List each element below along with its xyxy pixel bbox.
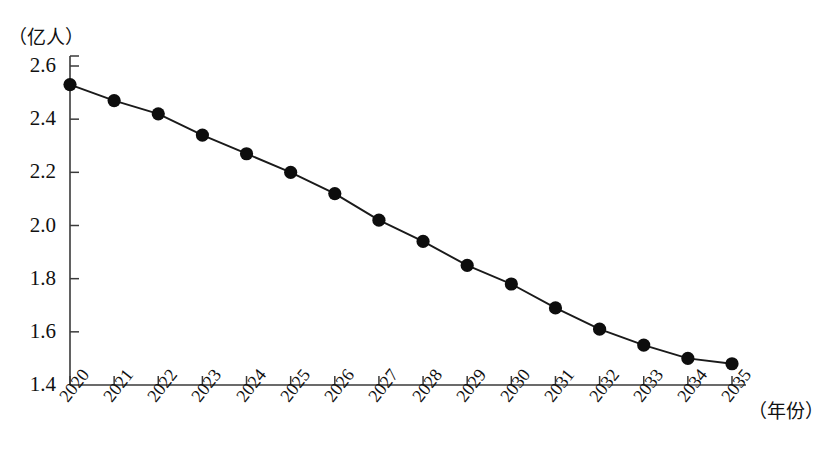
data-point [240, 147, 253, 160]
y-tick-label: 2.0 [10, 215, 56, 236]
data-point [372, 214, 385, 227]
data-point [284, 166, 297, 179]
y-tick-label: 2.2 [10, 161, 56, 182]
data-point [637, 339, 650, 352]
y-tick-label: 1.6 [10, 321, 56, 342]
data-point [461, 259, 474, 272]
data-point [505, 277, 518, 290]
data-point [63, 78, 76, 91]
data-point [328, 187, 341, 200]
data-point [416, 235, 429, 248]
y-tick-label: 1.8 [10, 268, 56, 289]
data-point [593, 323, 606, 336]
y-tick-label: 2.6 [10, 55, 56, 76]
data-point [152, 107, 165, 120]
data-point-group [63, 78, 738, 370]
data-point [549, 301, 562, 314]
y-tick-label: 1.4 [10, 374, 56, 395]
data-point [196, 129, 209, 142]
data-point [681, 352, 694, 365]
line-chart: （亿人） （年份） 2.62.42.22.01.81.61.4 20202021… [0, 0, 835, 466]
axis-lines [70, 56, 746, 385]
data-line [70, 85, 732, 364]
y-tick-marks [70, 56, 79, 385]
data-point [108, 94, 121, 107]
y-tick-label: 2.4 [10, 108, 56, 129]
